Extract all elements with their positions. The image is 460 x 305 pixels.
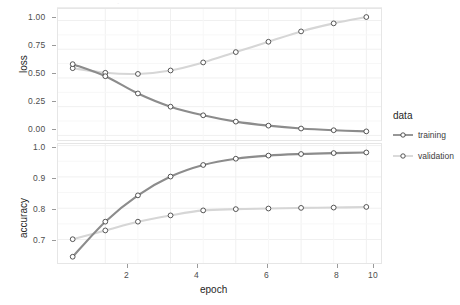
accuracy-plot-panel	[57, 143, 382, 264]
accuracy-plot-svg	[58, 144, 381, 263]
accuracy-ytickmark-1	[52, 178, 56, 179]
xtickmark-4	[197, 264, 198, 268]
loss-ytick-0-00: 0.00	[28, 124, 45, 134]
legend-title: data	[393, 110, 459, 121]
accuracy-ytickmark-2	[52, 209, 56, 210]
accuracy-ytickmark-3	[52, 240, 56, 241]
xtickmark-2	[127, 264, 128, 268]
legend-key-training-icon	[393, 129, 413, 141]
xtick-label-6: 6	[264, 270, 269, 280]
accuracy-ytickmark-0	[52, 147, 56, 148]
legend-label-validation: validation	[418, 151, 454, 161]
loss-ytick-1-00: 1.00	[28, 12, 45, 22]
x-axis-title: epoch	[200, 284, 227, 295]
accuracy-ytick-1-0: 1.0	[33, 142, 45, 152]
ghost-tick-label: .	[117, 0, 119, 6]
loss-plot-panel	[57, 8, 382, 141]
accuracy-y-axis-title: accuracy	[18, 198, 29, 238]
loss-ytickmark-0	[52, 17, 56, 18]
loss-plot-svg	[58, 9, 381, 140]
xtick-label-4: 4	[194, 270, 199, 280]
clipped-top-strip: .	[57, 0, 382, 8]
loss-ytickmark-4	[52, 129, 56, 130]
loss-ytickmark-2	[52, 73, 56, 74]
loss-ytick-0-75: 0.75	[28, 40, 45, 50]
loss-ytickmark-3	[52, 101, 56, 102]
xtick-label-10: 10	[368, 270, 378, 280]
legend-item-training[interactable]: training	[393, 128, 459, 142]
legend-item-validation[interactable]: validation	[393, 149, 459, 163]
xtick-label-8: 8	[334, 270, 339, 280]
xtickmark-6	[267, 264, 268, 268]
legend-key-validation-icon	[393, 150, 413, 162]
accuracy-ytick-0-9: 0.9	[33, 173, 45, 183]
accuracy-ytick-0-7: 0.7	[33, 235, 45, 245]
legend-label-training: training	[418, 130, 446, 140]
xtickmark-10	[373, 264, 374, 268]
xtickmark-8	[337, 264, 338, 268]
xtick-label-2: 2	[124, 270, 129, 280]
loss-ytick-0-50: 0.50	[28, 68, 45, 78]
loss-ytick-0-25: 0.25	[28, 96, 45, 106]
accuracy-ytick-0-8: 0.8	[33, 204, 45, 214]
chart-figure: . loss 1.00 0.75 0.50 0.25 0.00 accuracy…	[0, 0, 460, 305]
loss-ytickmark-1	[52, 45, 56, 46]
legend: data training validation	[393, 110, 459, 170]
